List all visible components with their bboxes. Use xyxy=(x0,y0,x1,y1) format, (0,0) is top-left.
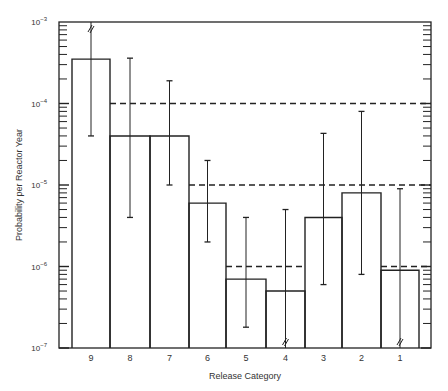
x-tick-label: 4 xyxy=(283,353,288,363)
y-minor-ticks xyxy=(59,26,431,348)
x-tick-labels: 987654321 xyxy=(88,353,402,363)
x-axis-label: Release Category xyxy=(209,371,282,381)
x-tick-label: 7 xyxy=(167,353,172,363)
x-tick-label: 1 xyxy=(397,353,402,363)
y-tick-label: 10−4 xyxy=(31,98,47,109)
y-tick-label: 10−3 xyxy=(31,16,47,27)
y-tick-label: 10−7 xyxy=(31,342,47,353)
error-bars xyxy=(88,22,403,348)
y-tick-labels: 10−310−410−510−610−7 xyxy=(31,16,47,353)
reference-lines xyxy=(110,104,431,267)
y-tick-label: 10−5 xyxy=(31,179,47,190)
x-tick-label: 3 xyxy=(321,353,326,363)
x-tick-label: 2 xyxy=(359,353,364,363)
y-axis-label: Probability per Reactor Year xyxy=(14,129,24,241)
x-tick-label: 8 xyxy=(127,353,132,363)
release-category-chart: 10−310−410−510−610−7 987654321 Release C… xyxy=(0,0,448,391)
x-tick-label: 6 xyxy=(205,353,210,363)
x-tick-label: 5 xyxy=(243,353,248,363)
x-tick-label: 9 xyxy=(88,353,93,363)
y-tick-label: 10−6 xyxy=(31,261,47,272)
